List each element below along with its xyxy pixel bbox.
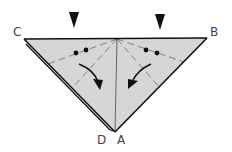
point-label-b: B [210, 26, 218, 38]
point-label-d: D [97, 134, 106, 146]
point-label-a: A [117, 134, 125, 146]
origami-diagram [0, 0, 232, 152]
point-label-c: C [13, 26, 21, 38]
push-marker-left-icon [69, 12, 79, 28]
push-marker-right-icon [155, 14, 165, 30]
